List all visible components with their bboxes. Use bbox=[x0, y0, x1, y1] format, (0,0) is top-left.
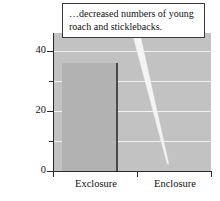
y-axis-tick-labels: 40 20 0 bbox=[22, 0, 46, 201]
y-tick-mark-40 bbox=[47, 51, 54, 52]
x-tick-mark-left bbox=[53, 171, 54, 177]
gridline-40 bbox=[54, 51, 211, 52]
x-tick-label-enclosure: Enclosure bbox=[138, 178, 212, 189]
chart-figure: Fish fry per cage 40 20 0 Exclosure Encl… bbox=[0, 0, 220, 201]
bar-exclosure bbox=[62, 63, 118, 171]
plot-area bbox=[54, 33, 211, 171]
x-axis-line bbox=[53, 171, 212, 172]
x-tick-label-exclosure: Exclosure bbox=[55, 178, 137, 189]
x-tick-mark-right bbox=[211, 171, 212, 177]
y-tick-label-0: 0 bbox=[24, 165, 46, 176]
y-tick-label-40: 40 bbox=[24, 45, 46, 56]
y-tick-label-20: 20 bbox=[24, 105, 46, 116]
callout-text: …decreased numbers of young roach and st… bbox=[69, 8, 199, 33]
y-tick-mark-20 bbox=[47, 111, 54, 112]
callout-box: …decreased numbers of young roach and st… bbox=[62, 3, 205, 38]
x-tick-mark-center bbox=[137, 171, 138, 177]
